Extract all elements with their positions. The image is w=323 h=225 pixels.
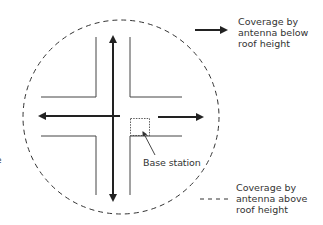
legend-above-roof-line-3: roof height	[236, 205, 288, 216]
legend-below-roof-line-2: antenna below	[238, 28, 308, 39]
legend-above-roof-line-1: Coverage by	[236, 183, 296, 194]
legend-above-roof-line-2: antenna above	[236, 194, 307, 205]
below-roof-coverage-arrows	[40, 37, 202, 200]
edge-text-fragment: e	[0, 155, 1, 166]
legend-below-roof-line-3: roof height	[238, 39, 290, 50]
base-station-icon	[131, 119, 150, 136]
base-station-label: Base station	[143, 157, 201, 168]
legend-below-roof-line-1: Coverage by	[238, 17, 298, 28]
